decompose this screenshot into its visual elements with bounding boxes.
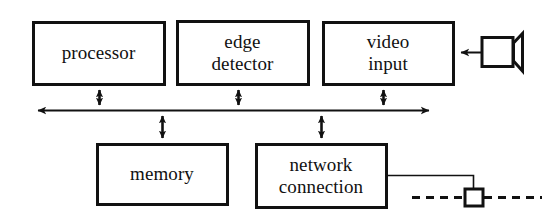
block-video-input[interactable] bbox=[324, 23, 454, 85]
camera-body-icon bbox=[482, 38, 513, 67]
diagram-vector-layer bbox=[0, 0, 553, 219]
camera-lens-icon bbox=[514, 34, 523, 72]
diagram-canvas: processor edge detector video input memo… bbox=[0, 0, 553, 219]
block-edge-detector[interactable] bbox=[178, 22, 309, 85]
network-cable-line bbox=[386, 176, 474, 192]
block-memory[interactable] bbox=[98, 145, 228, 205]
block-processor[interactable] bbox=[34, 23, 165, 85]
network-connector-icon bbox=[465, 189, 483, 206]
block-network-connection[interactable] bbox=[257, 145, 387, 208]
